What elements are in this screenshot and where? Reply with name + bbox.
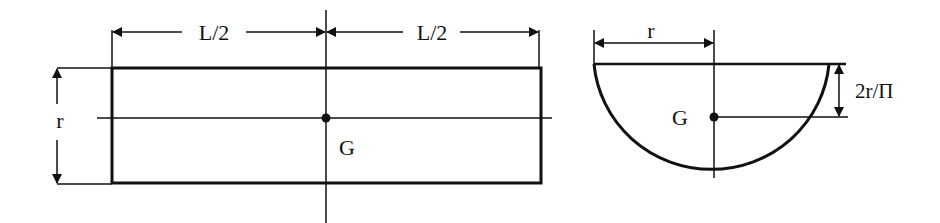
label-r-left: r: [56, 108, 64, 133]
label-l2-right: L/2: [417, 20, 448, 45]
label-2r-pi: 2r/Π: [855, 79, 894, 103]
label-l2-left: L/2: [199, 20, 230, 45]
centroid-dot-left: [322, 114, 331, 123]
diagram-canvas: L/2 L/2 r G r 2r/Π: [0, 0, 940, 223]
label-g-left: G: [339, 135, 355, 160]
label-g-right: G: [672, 105, 688, 130]
centroid-dot-right: [710, 113, 719, 122]
left-figure: L/2 L/2 r G: [56, 10, 552, 223]
right-figure: r 2r/Π G: [594, 18, 894, 178]
diagram-svg: L/2 L/2 r G r 2r/Π: [0, 0, 940, 223]
label-r-top: r: [647, 18, 655, 43]
